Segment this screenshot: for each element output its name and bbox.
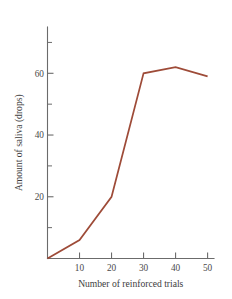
saliva-data-line — [48, 67, 208, 258]
x-tick-label-40: 40 — [171, 263, 181, 273]
x-axis-title: Number of reinforced trials — [78, 278, 183, 289]
x-tick-label-10: 10 — [75, 263, 85, 273]
y-tick-label-20: 20 — [35, 192, 45, 202]
chart-figure: 20 40 60 10 20 30 40 50 Number of reinfo… — [0, 0, 232, 299]
y-tick-label-40: 40 — [35, 130, 45, 140]
y-axis-title: Amount of saliva (drops) — [13, 94, 25, 191]
line-chart-canvas: 20 40 60 10 20 30 40 50 Number of reinfo… — [0, 0, 232, 299]
x-tick-label-30: 30 — [139, 263, 149, 273]
x-tick-label-50: 50 — [203, 263, 213, 273]
y-tick-label-60: 60 — [35, 69, 45, 79]
x-tick-label-20: 20 — [107, 263, 117, 273]
